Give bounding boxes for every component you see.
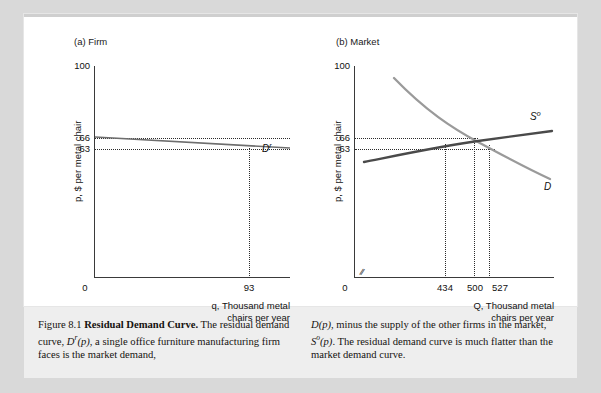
- panel-a-curve-label-residual-demand: Dr: [262, 142, 272, 154]
- caption-col1-math-tail: (p): [77, 336, 89, 347]
- panel-b-ytick-66: 66: [320, 132, 350, 143]
- panel-b-xtick-527: 527: [486, 282, 514, 293]
- figure-caption: Figure 8.1 Residual Demand Curve. The re…: [38, 318, 566, 361]
- panel-a-ytick-63: 63: [60, 143, 90, 154]
- panel-a-ytick-100: 100: [60, 60, 90, 71]
- residual-demand-label-sup: r: [269, 142, 271, 149]
- panel-b-title: (b) Market: [336, 36, 379, 47]
- caption-col2-math-1: D(p): [311, 319, 331, 330]
- caption-col2-text-a: , minus the supply of the other firms in…: [331, 319, 546, 330]
- supply-label-sup: o: [537, 110, 541, 117]
- panel-market: (b) Market p, $ per metal chair 100 66 6…: [292, 14, 577, 306]
- figure-card: (a) Firm p, $ per metal chair 100 66 63: [24, 14, 577, 306]
- panel-a-ytick-66: 66: [60, 132, 90, 143]
- panel-a-origin-label: 0: [78, 282, 92, 293]
- panel-b-x-axis-title-line1: Q, Thousand metal: [473, 300, 554, 311]
- panel-a-xtick-93: 93: [235, 282, 263, 293]
- panel-a-curves: [94, 66, 294, 278]
- panel-b-plot-area: 100 66 63 // 0 434: [354, 66, 554, 278]
- other-firms-supply-curve: [364, 131, 552, 162]
- panel-b-ytick-100: 100: [320, 60, 350, 71]
- panel-a-x-axis-title-line1: q, Thousand metal: [211, 300, 290, 311]
- supply-label-base: S: [530, 111, 537, 122]
- caption-title: Residual Demand Curve.: [84, 319, 198, 330]
- panel-b-xtick-500: 500: [461, 282, 489, 293]
- caption-figure-number: Figure 8.1: [38, 319, 82, 330]
- panel-b-xtick-434: 434: [431, 282, 459, 293]
- figure-page: (a) Firm p, $ per metal chair 100 66 63: [0, 0, 601, 393]
- panel-b-curves: [354, 66, 559, 278]
- residual-demand-curve-line: [95, 137, 290, 148]
- panel-b-curve-label-supply: So: [530, 110, 541, 122]
- caption-col2-math-2-tail: (p): [320, 336, 332, 347]
- panel-firm: (a) Firm p, $ per metal chair 100 66 63: [24, 14, 309, 306]
- caption-column-right: D(p), minus the supply of the other firm…: [311, 318, 566, 361]
- caption-col2-text-b: . The residual demand curve is much flat…: [311, 336, 553, 360]
- panel-a-title: (a) Firm: [74, 36, 107, 47]
- panel-b-curve-label-demand: D: [544, 181, 551, 192]
- panel-b-ytick-63: 63: [320, 143, 350, 154]
- panel-b-origin-label: 0: [338, 282, 352, 293]
- market-demand-curve: [394, 78, 550, 179]
- panel-a-plot-area: 100 66 63 0 93 Dr: [94, 66, 290, 278]
- caption-column-left: Figure 8.1 Residual Demand Curve. The re…: [38, 318, 293, 361]
- demand-label-base: D: [544, 181, 551, 192]
